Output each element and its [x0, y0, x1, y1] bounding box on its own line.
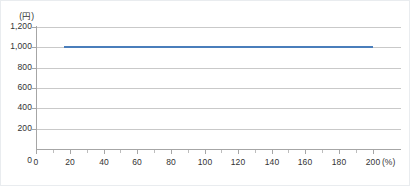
x-axis-unit-label: (%) [382, 157, 395, 167]
x-tick-60 [137, 150, 138, 154]
chart-container: (円) 1,200 1,000 800 600 400 200 0 [0, 0, 410, 186]
y-axis-line [36, 26, 37, 152]
x-minor-tick-170 [322, 150, 323, 153]
x-minor-tick-190 [356, 150, 357, 153]
x-tick-140 [272, 150, 273, 154]
x-minor-tick-150 [288, 150, 289, 153]
y-tick-200 [32, 129, 36, 130]
y-axis-label-400: 400 [0, 103, 32, 112]
x-tick-20 [70, 150, 71, 154]
x-minor-tick-110 [221, 150, 222, 153]
y-tick-1000 [32, 47, 36, 48]
x-minor-tick-130 [255, 150, 256, 153]
x-tick-0 [36, 150, 37, 154]
x-tick-80 [171, 150, 172, 154]
x-minor-tick-70 [154, 150, 155, 153]
y-axis-label-1200: 1,200 [0, 22, 32, 31]
x-tick-200 [373, 150, 374, 154]
y-tick-1200 [32, 27, 36, 28]
y-axis-label-800: 800 [0, 63, 32, 72]
x-minor-tick-30 [87, 150, 88, 153]
plot-area [36, 27, 401, 149]
series-line-fee [64, 46, 373, 48]
x-tick-160 [305, 150, 306, 154]
y-axis-label-200: 200 [0, 124, 32, 133]
y-axis-label-600: 600 [0, 83, 32, 92]
gridline-800 [36, 68, 401, 69]
x-tick-100 [205, 150, 206, 154]
x-tick-120 [238, 150, 239, 154]
y-tick-800 [32, 68, 36, 69]
y-tick-400 [32, 108, 36, 109]
gridline-600 [36, 88, 401, 89]
gridline-200 [36, 129, 401, 130]
x-tick-180 [339, 150, 340, 154]
x-minor-tick-50 [120, 150, 121, 153]
y-axis-label-1000: 1,000 [0, 42, 32, 51]
gridline-1200 [36, 27, 401, 28]
gridline-400 [36, 108, 401, 109]
x-axis-line [36, 149, 401, 150]
y-tick-600 [32, 88, 36, 89]
x-tick-40 [104, 150, 105, 154]
x-minor-tick-10 [53, 150, 54, 153]
x-minor-tick-90 [188, 150, 189, 153]
